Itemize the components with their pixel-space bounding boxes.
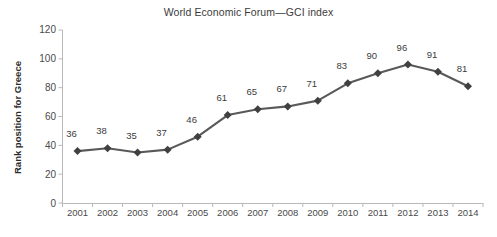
data-marker (134, 149, 142, 157)
data-marker (164, 146, 172, 154)
data-point-label: 71 (299, 79, 325, 89)
data-marker (404, 61, 412, 69)
data-point-label: 91 (419, 50, 445, 60)
data-point-label: 90 (359, 51, 385, 61)
data-point-label: 61 (209, 93, 235, 103)
y-axis-ticks (59, 30, 63, 203)
data-marker (374, 69, 382, 77)
data-point-label: 96 (389, 43, 415, 53)
data-marker (434, 68, 442, 76)
data-point-label: 35 (119, 131, 145, 141)
data-point-label: 81 (449, 64, 475, 74)
data-point-label: 46 (179, 115, 205, 125)
data-point-label: 67 (269, 84, 295, 94)
x-tick-label: 2014 (449, 208, 487, 218)
data-marker (104, 144, 112, 152)
chart-container: World Economic Forum—GCI index Rank posi… (0, 0, 497, 237)
plot-area (0, 0, 497, 237)
data-marker (74, 147, 82, 155)
data-marker (254, 105, 262, 113)
data-point-label: 38 (89, 126, 115, 136)
data-point-label: 36 (59, 129, 85, 139)
data-marker (284, 102, 292, 110)
data-marker (464, 82, 472, 90)
data-point-label: 65 (239, 87, 265, 97)
data-point-label: 37 (149, 128, 175, 138)
data-point-label: 83 (329, 61, 355, 71)
